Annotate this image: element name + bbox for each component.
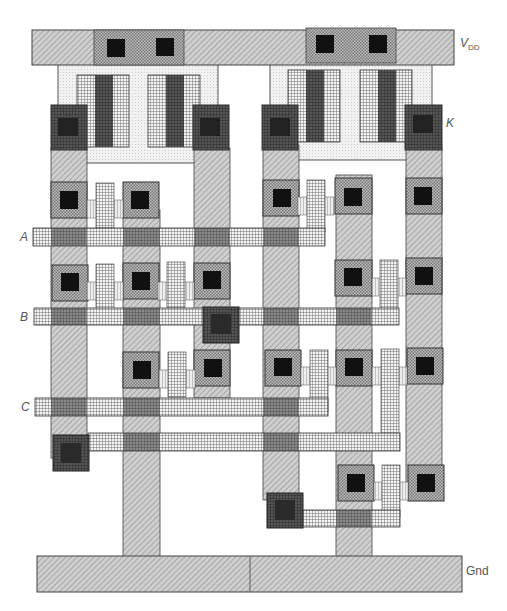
vdd-label: VDD (460, 36, 480, 52)
output-k-label: K (446, 116, 454, 130)
gnd-rail (37, 556, 462, 592)
input-a-label: A (20, 230, 28, 244)
input-b-label: B (20, 310, 28, 324)
input-c-label: C (21, 400, 30, 414)
layout-canvas (0, 0, 507, 611)
gnd-label: Gnd (466, 564, 489, 578)
